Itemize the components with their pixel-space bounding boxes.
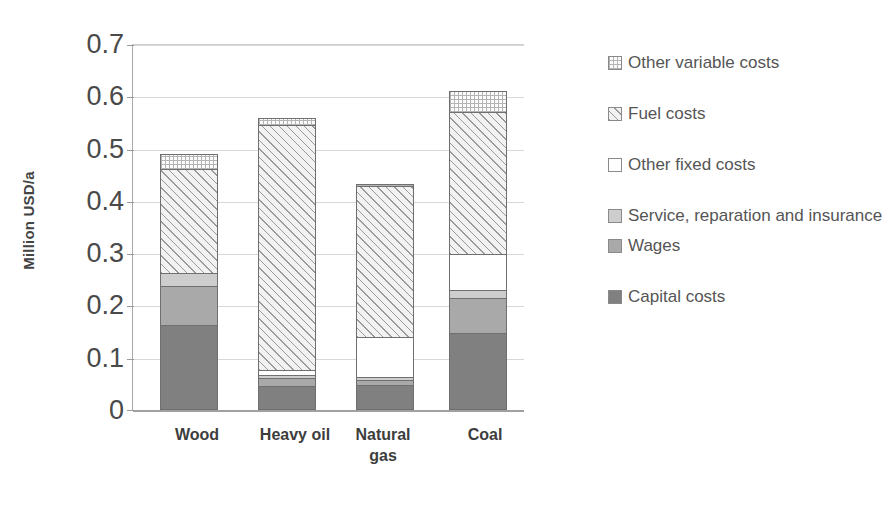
bar-wood[interactable] bbox=[160, 154, 218, 410]
legend-item-fuel-costs[interactable]: Fuel costs bbox=[608, 103, 886, 125]
legend: Other variable costsFuel costsOther fixe… bbox=[608, 52, 886, 337]
x-label-coal: Coal bbox=[420, 424, 550, 445]
segment-wood-fuel-costs[interactable] bbox=[160, 169, 218, 273]
segment-natural-gas-other-variable-costs[interactable] bbox=[356, 184, 414, 186]
y-tick-2: 0.2 bbox=[40, 292, 124, 319]
legend-label-capital-costs: Capital costs bbox=[628, 286, 725, 308]
legend-item-other-fixed-costs[interactable]: Other fixed costs bbox=[608, 154, 886, 176]
legend-item-capital-costs[interactable]: Capital costs bbox=[608, 286, 886, 308]
y-axis-title-text: Million USD/a bbox=[20, 171, 37, 269]
y-tickmark-0 bbox=[127, 410, 134, 411]
legend-label-other-fixed-costs: Other fixed costs bbox=[628, 154, 756, 176]
segment-coal-fuel-costs[interactable] bbox=[449, 112, 507, 254]
y-tick-4: 0.4 bbox=[40, 187, 124, 214]
segment-heavy-oil-other-fixed-costs[interactable] bbox=[258, 370, 316, 374]
legend-swatch-wages-icon bbox=[608, 239, 622, 253]
legend-item-service-reparation-and-insurance[interactable]: Service, reparation and insurance bbox=[608, 205, 886, 227]
plot-area bbox=[132, 44, 524, 410]
segment-natural-gas-fuel-costs[interactable] bbox=[356, 186, 414, 337]
legend-item-wages[interactable]: Wages bbox=[608, 235, 886, 257]
y-tick-7: 0.7 bbox=[40, 31, 124, 58]
legend-swatch-capital-costs-icon bbox=[608, 290, 622, 304]
gridline-0 bbox=[133, 410, 524, 412]
bar-coal[interactable] bbox=[449, 91, 507, 410]
bar-heavy-oil[interactable] bbox=[258, 118, 316, 410]
segment-heavy-oil-other-variable-costs[interactable] bbox=[258, 118, 316, 126]
stacked-bar-chart: Million USD/a 0 0.1 0.2 0.3 0.4 0.5 0.6 … bbox=[0, 0, 891, 515]
segment-natural-gas-other-fixed-costs[interactable] bbox=[356, 337, 414, 377]
segment-coal-capital-costs[interactable] bbox=[449, 333, 507, 410]
legend-swatch-fuel-costs-icon bbox=[608, 107, 622, 121]
segment-heavy-oil-wages[interactable] bbox=[258, 378, 316, 385]
segment-coal-service-reparation-and-insurance[interactable] bbox=[449, 290, 507, 299]
legend-swatch-other-fixed-costs-icon bbox=[608, 158, 622, 172]
segment-wood-service-reparation-and-insurance[interactable] bbox=[160, 273, 218, 286]
segment-coal-wages[interactable] bbox=[449, 298, 507, 332]
legend-label-service-reparation-and-insurance: Service, reparation and insurance bbox=[628, 205, 882, 227]
segment-wood-wages[interactable] bbox=[160, 286, 218, 325]
y-tick-0: 0 bbox=[40, 397, 124, 424]
segment-natural-gas-capital-costs[interactable] bbox=[356, 385, 414, 410]
y-tick-5: 0.5 bbox=[40, 135, 124, 162]
y-tick-1: 0.1 bbox=[40, 344, 124, 371]
legend-swatch-service-reparation-and-insurance-icon bbox=[608, 209, 622, 223]
segment-natural-gas-wages[interactable] bbox=[356, 380, 414, 385]
segment-heavy-oil-service-reparation-and-insurance[interactable] bbox=[258, 375, 316, 379]
segment-natural-gas-service-reparation-and-insurance[interactable] bbox=[356, 377, 414, 380]
legend-label-fuel-costs: Fuel costs bbox=[628, 103, 705, 125]
legend-swatch-other-variable-costs-icon bbox=[608, 56, 622, 70]
segment-coal-other-variable-costs[interactable] bbox=[449, 91, 507, 111]
segment-coal-other-fixed-costs[interactable] bbox=[449, 254, 507, 290]
segment-heavy-oil-capital-costs[interactable] bbox=[258, 386, 316, 411]
legend-item-other-variable-costs[interactable]: Other variable costs bbox=[608, 52, 886, 74]
bar-natural-gas[interactable] bbox=[356, 184, 414, 410]
segment-wood-other-variable-costs[interactable] bbox=[160, 154, 218, 169]
y-axis-tick-labels: 0 0.1 0.2 0.3 0.4 0.5 0.6 0.7 bbox=[40, 0, 124, 515]
bar-group bbox=[133, 45, 524, 410]
y-tick-6: 0.6 bbox=[40, 83, 124, 110]
segment-heavy-oil-fuel-costs[interactable] bbox=[258, 125, 316, 370]
legend-label-wages: Wages bbox=[628, 235, 680, 257]
segment-wood-capital-costs[interactable] bbox=[160, 325, 218, 410]
x-axis-labels: Wood Heavy oil Natural gas Coal bbox=[132, 424, 524, 494]
legend-label-other-variable-costs: Other variable costs bbox=[628, 52, 779, 74]
y-tick-3: 0.3 bbox=[40, 240, 124, 267]
